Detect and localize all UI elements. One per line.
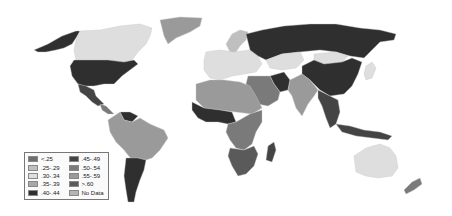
legend-label: No Data xyxy=(82,190,104,196)
legend-label: .25-.29 xyxy=(41,165,60,171)
map-legend: <.25 .25-.29 .30-.34 .35-.39 .40-.44 .45… xyxy=(24,152,109,200)
legend-label: .55-.59 xyxy=(82,173,101,179)
region-greenland xyxy=(160,17,202,44)
region-madagascar xyxy=(266,142,276,162)
legend-swatch xyxy=(28,190,38,196)
legend-label: .50-.54 xyxy=(82,165,101,171)
legend-swatch xyxy=(28,173,38,179)
region-new-zealand xyxy=(404,178,422,194)
region-mexico xyxy=(78,84,104,106)
region-southern-africa xyxy=(228,146,258,176)
region-usa xyxy=(70,60,138,86)
region-argentina xyxy=(124,158,146,202)
legend-item: .25-.29 xyxy=(28,163,65,171)
legend-label: >.60 xyxy=(82,181,94,187)
legend-swatch xyxy=(28,181,38,187)
legend-swatch xyxy=(69,173,79,179)
legend-swatch xyxy=(69,181,79,187)
legend-label: .45-.49 xyxy=(82,156,101,162)
legend-item: .35-.39 xyxy=(28,180,65,188)
region-south-america-north xyxy=(108,112,168,160)
legend-label: .35-.39 xyxy=(41,181,60,187)
legend-label: .30-.34 xyxy=(41,173,60,179)
legend-label: <.25 xyxy=(41,156,53,162)
legend-swatch xyxy=(69,156,79,162)
legend-swatch xyxy=(28,156,38,162)
legend-item: .45-.49 xyxy=(69,155,106,163)
legend-swatch xyxy=(28,165,38,171)
region-europe xyxy=(204,50,262,80)
legend-item: .30-.34 xyxy=(28,172,65,180)
region-japan xyxy=(364,62,376,80)
legend-item: .50-.54 xyxy=(69,163,106,171)
region-indonesia xyxy=(336,124,392,140)
region-australia xyxy=(354,144,398,178)
region-canada xyxy=(74,24,152,62)
region-southeast-asia xyxy=(318,90,340,128)
legend-item: <.25 xyxy=(28,155,65,163)
legend-label: .40-.44 xyxy=(41,190,60,196)
region-alaska xyxy=(34,31,80,52)
region-central-america xyxy=(100,104,114,114)
legend-swatch xyxy=(69,190,79,196)
legend-item: No Data xyxy=(69,189,106,197)
region-scandinavia xyxy=(226,30,248,52)
legend-item: .40-.44 xyxy=(28,189,65,197)
legend-item: >.60 xyxy=(69,180,106,188)
legend-item: .55-.59 xyxy=(69,172,106,180)
legend-swatch xyxy=(69,165,79,171)
